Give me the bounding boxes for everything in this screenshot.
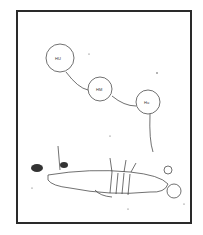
arrow bbox=[58, 146, 60, 170]
arrow bbox=[124, 160, 126, 172]
bubble-3-text: Hu bbox=[144, 100, 150, 105]
boot bbox=[60, 162, 68, 168]
comic-illustration bbox=[0, 0, 203, 235]
bubble-tail bbox=[150, 114, 153, 152]
bubble-1-text: HU bbox=[55, 56, 61, 61]
small-face bbox=[164, 166, 172, 174]
boot bbox=[31, 164, 43, 172]
arm bbox=[95, 190, 112, 197]
bubble-connector bbox=[112, 96, 136, 106]
bubble-connector bbox=[66, 72, 88, 90]
body-outline bbox=[48, 171, 168, 194]
head bbox=[167, 184, 181, 198]
rope-bands bbox=[110, 172, 130, 195]
bubble-2-text: HM bbox=[96, 87, 103, 92]
arrow bbox=[131, 163, 136, 172]
arrow bbox=[110, 158, 112, 172]
